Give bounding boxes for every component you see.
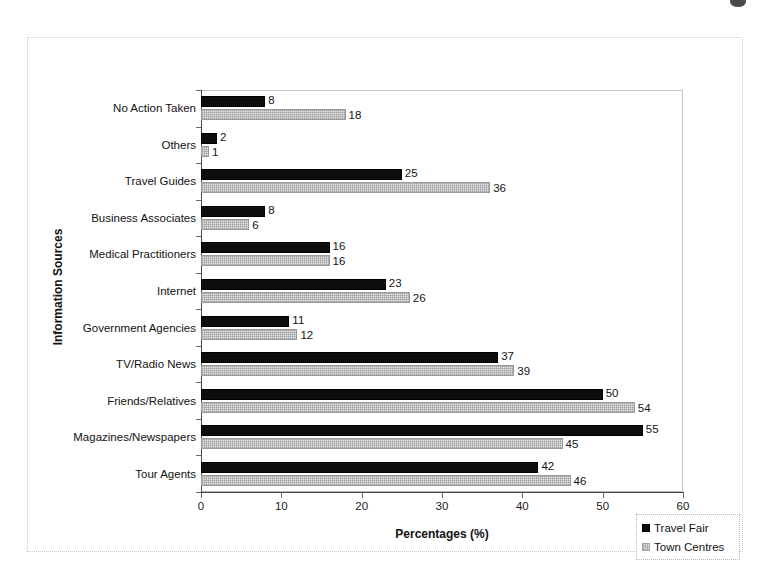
bar-value-travel-fair: 55	[646, 424, 659, 435]
y-tick-mark	[196, 273, 201, 274]
legend-swatch-town-icon	[642, 543, 650, 551]
legend-label: Travel Fair	[654, 522, 709, 534]
bar-value-travel-fair: 2	[220, 132, 226, 143]
bar-travel-fair	[201, 133, 217, 144]
bar-value-travel-fair: 16	[333, 241, 346, 252]
y-axis-title: Information Sources	[51, 207, 65, 367]
bar-town-centres	[201, 438, 563, 449]
bar-travel-fair	[201, 96, 265, 107]
bar-travel-fair	[201, 462, 538, 473]
x-tick-mark	[442, 493, 443, 498]
bar-value-town-centres: 26	[413, 293, 426, 304]
x-tick-label: 20	[355, 500, 368, 512]
y-tick-mark	[196, 455, 201, 456]
bar-travel-fair	[201, 425, 643, 436]
y-tick-mark	[196, 492, 201, 493]
y-tick-mark	[196, 309, 201, 310]
bar-town-centres	[201, 182, 490, 193]
bar-travel-fair	[201, 206, 265, 217]
bar-travel-fair	[201, 316, 289, 327]
bar-town-centres	[201, 365, 514, 376]
bar-town-centres	[201, 109, 346, 120]
bar-value-travel-fair: 11	[292, 315, 304, 326]
bar-travel-fair	[201, 279, 386, 290]
y-tick-mark	[196, 200, 201, 201]
legend-label: Town Centres	[654, 541, 724, 553]
legend-item[interactable]: Travel Fair	[642, 518, 735, 537]
bar-value-town-centres: 36	[493, 183, 506, 194]
y-tick-mark	[196, 382, 201, 383]
bar-travel-fair	[201, 242, 330, 253]
scan-artifact	[730, 0, 746, 7]
bar-value-town-centres: 1	[212, 147, 218, 158]
x-tick-label: 10	[275, 500, 288, 512]
bar-value-travel-fair: 23	[389, 278, 402, 289]
bar-travel-fair	[201, 352, 498, 363]
bar-town-centres	[201, 146, 209, 157]
x-tick-mark	[683, 493, 684, 498]
bar-value-town-centres: 46	[574, 476, 587, 487]
bar-value-town-centres: 12	[300, 330, 313, 341]
y-tick-mark	[196, 346, 201, 347]
bar-value-travel-fair: 37	[501, 351, 514, 362]
x-tick-label: 30	[436, 500, 449, 512]
bar-value-town-centres: 6	[252, 220, 258, 231]
bar-town-centres	[201, 219, 249, 230]
bar-town-centres	[201, 292, 410, 303]
bar-value-town-centres: 39	[517, 366, 530, 377]
y-tick-mark	[196, 127, 201, 128]
bar-town-centres	[201, 475, 571, 486]
bar-value-travel-fair: 42	[541, 461, 554, 472]
x-tick-mark	[281, 493, 282, 498]
x-tick-label: 60	[677, 500, 690, 512]
x-axis-title: Percentages (%)	[201, 527, 683, 541]
bar-value-travel-fair: 50	[606, 388, 619, 399]
x-tick-mark	[201, 493, 202, 498]
legend-item[interactable]: Town Centres	[642, 537, 735, 556]
bar-town-centres	[201, 329, 297, 340]
bar-value-travel-fair: 25	[405, 168, 418, 179]
bar-value-travel-fair: 8	[268, 95, 274, 106]
bar-value-town-centres: 54	[638, 403, 651, 414]
bar-town-centres	[201, 402, 635, 413]
bar-value-town-centres: 18	[349, 110, 362, 121]
x-tick-label: 40	[516, 500, 529, 512]
x-tick-mark	[362, 493, 363, 498]
bar-value-travel-fair: 8	[268, 205, 274, 216]
x-tick-label: 0	[198, 500, 204, 512]
y-tick-mark	[196, 419, 201, 420]
legend-swatch-travel-icon	[642, 524, 650, 532]
bar-value-town-centres: 45	[566, 439, 579, 450]
chart-legend: Travel FairTown Centres	[636, 514, 740, 560]
bar-travel-fair	[201, 389, 603, 400]
y-tick-mark	[196, 90, 201, 91]
y-tick-mark	[196, 163, 201, 164]
y-tick-mark	[196, 236, 201, 237]
bar-town-centres	[201, 255, 330, 266]
x-tick-mark	[603, 493, 604, 498]
x-tick-label: 50	[596, 500, 609, 512]
bar-travel-fair	[201, 169, 402, 180]
x-tick-mark	[522, 493, 523, 498]
bar-value-town-centres: 16	[333, 256, 346, 267]
y-axis-title-wrapper: Information Sources	[40, 0, 60, 580]
